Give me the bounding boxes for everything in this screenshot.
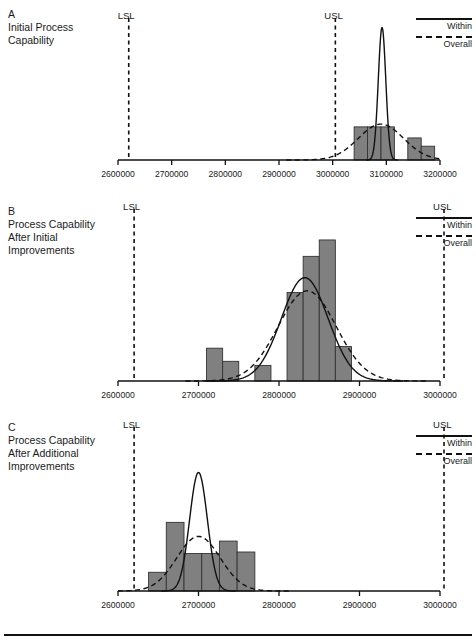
x-axis-tick-label: 3200000 [423, 169, 457, 179]
x-axis-tick-label: 2700000 [182, 600, 216, 610]
panel-b: B Process Capability After Initial Impro… [0, 197, 476, 413]
x-axis-tick-label: 2600000 [101, 600, 135, 610]
histogram-bar [219, 541, 237, 591]
x-axis-tick-label: 3000000 [423, 600, 457, 610]
histogram-bar [237, 552, 255, 591]
histogram-bar [184, 554, 202, 591]
histogram-bar [207, 348, 223, 381]
panel-b-plot: 26000002700000280000029000003000000 [0, 197, 476, 413]
x-axis-tick-label: 2600000 [101, 169, 135, 179]
panel-c-plot: 26000002700000280000029000003000000 [0, 413, 476, 628]
histogram-bar [149, 572, 167, 591]
x-axis-tick-label: 3100000 [370, 169, 404, 179]
x-axis-tick-label: 2800000 [262, 600, 296, 610]
x-axis-tick-label: 2800000 [262, 390, 296, 400]
panel-a: A Initial Process Capability LSL USL Wit… [0, 0, 476, 197]
panel-c: C Process Capability After Additional Im… [0, 413, 476, 628]
x-axis-tick-label: 2900000 [343, 600, 377, 610]
histogram-bar [202, 554, 220, 591]
histogram-bar [166, 522, 184, 591]
histogram-bar [319, 240, 335, 381]
panel-a-plot: 2600000270000028000002900000300000031000… [0, 0, 476, 197]
x-axis-tick-label: 2800000 [209, 169, 243, 179]
bottom-rule [4, 634, 472, 636]
x-axis-tick-label: 2900000 [343, 390, 377, 400]
x-axis-tick-label: 2600000 [101, 390, 135, 400]
x-axis-tick-label: 2700000 [155, 169, 189, 179]
histogram-bar [287, 292, 303, 381]
x-axis-tick-label: 2900000 [262, 169, 296, 179]
x-axis-tick-label: 2700000 [182, 390, 216, 400]
x-axis-tick-label: 3000000 [423, 390, 457, 400]
histogram-bar [303, 256, 319, 381]
x-axis-tick-label: 3000000 [316, 169, 350, 179]
